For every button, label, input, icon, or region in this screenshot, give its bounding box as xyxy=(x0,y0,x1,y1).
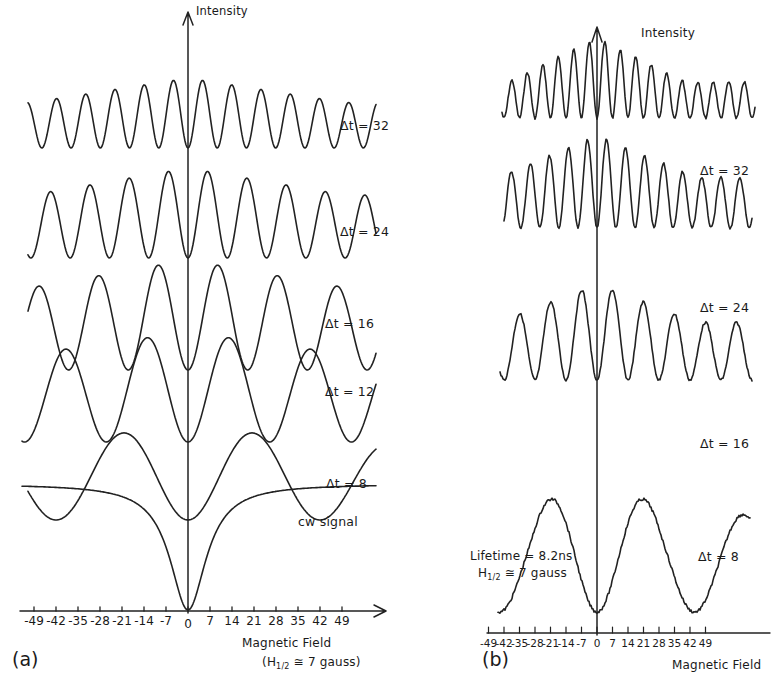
panel-a-tick-label: -42 xyxy=(46,614,66,628)
panel-a-tick-label: 21 xyxy=(246,614,261,628)
panel-a-curve-label-dt8: Δt = 8 xyxy=(326,476,367,491)
panel-b-y-axis-label: Intensity xyxy=(641,26,695,40)
panel-a-tick-label: -28 xyxy=(90,614,110,628)
panel-b-tick-label: 35 xyxy=(668,637,681,649)
panel-b-h-annotation: H1/2 ≅ 7 gauss xyxy=(478,566,567,582)
panel-a-label: (a) xyxy=(12,648,38,670)
panel-a-curve-label-dt24: Δt = 24 xyxy=(340,224,389,239)
panel-a-tick-label: -49 xyxy=(24,614,44,628)
panel-a-curve-label-dt16: Δt = 16 xyxy=(325,316,374,331)
panel-a-tick-label: 28 xyxy=(268,614,283,628)
panel-b-label: (b) xyxy=(482,648,509,670)
panel-a-curve-dt16 xyxy=(28,265,376,370)
panel-b-tick-label: 28 xyxy=(652,637,665,649)
panel-b-tick-label: 14 xyxy=(621,637,634,649)
panel-a-tick-label: 35 xyxy=(290,614,305,628)
panel-a-tick-label: 0 xyxy=(184,617,192,631)
panel-a-x-axis-note: (H1/2 ≅ 7 gauss) xyxy=(262,655,361,671)
panel-a-y-axis-label: Intensity xyxy=(196,4,248,18)
panel-b-curve-label-dt16: Δt = 16 xyxy=(700,436,749,451)
panel-a-x-axis-label: Magnetic Field xyxy=(242,636,331,650)
panel-b-curve-label-dt8: Δt = 8 xyxy=(698,549,739,564)
panel-b-tick-label: 7 xyxy=(609,637,616,649)
panel-b-tick-label: 42 xyxy=(683,637,696,649)
panel-a-tick-label: 49 xyxy=(334,614,349,628)
panel-b-tick-label: -14 xyxy=(557,637,574,649)
panel-b-tick-label: 0 xyxy=(594,637,601,649)
panel-a-curve-label-dt32: Δt = 32 xyxy=(340,118,389,133)
figure-canvas xyxy=(0,0,783,690)
panel-b-tick-label: 49 xyxy=(699,637,712,649)
panel-b-curve-label-dt24: Δt = 24 xyxy=(700,300,749,315)
panel-b-x-axis-label: Magnetic Field xyxy=(672,658,761,672)
panel-b-curve-dt32 xyxy=(502,42,755,120)
panel-a-tick-label: 14 xyxy=(224,614,239,628)
panel-a-tick-label: -7 xyxy=(160,614,172,628)
panel-a-y-axis xyxy=(183,12,193,613)
panel-b-tick-label: -7 xyxy=(576,637,586,649)
panel-a-curve-label-cw: cw signal xyxy=(298,514,358,529)
panel-b-curve-dt24 xyxy=(504,139,752,229)
panel-a-tick-label: -21 xyxy=(112,614,132,628)
panel-a-curve-dt12 xyxy=(22,338,376,442)
panel-b-curve-label-dt32: Δt = 32 xyxy=(700,163,749,178)
panel-a-tick-label: 42 xyxy=(312,614,327,628)
panel-a-curve-dt24 xyxy=(28,172,376,259)
panel-a-curve-dt32 xyxy=(28,81,376,149)
panel-a-tick-label: -35 xyxy=(68,614,88,628)
panel-b-lifetime-annotation: Lifetime = 8.2ns xyxy=(470,549,573,563)
panel-a-curve-label-dt12: Δt = 12 xyxy=(325,384,374,399)
panel-a-tick-label: -14 xyxy=(134,614,154,628)
panel-a-curve-dt8 xyxy=(28,433,376,520)
panel-a-tick-label: 7 xyxy=(206,614,214,628)
panel-b-tick-label: 21 xyxy=(637,637,650,649)
